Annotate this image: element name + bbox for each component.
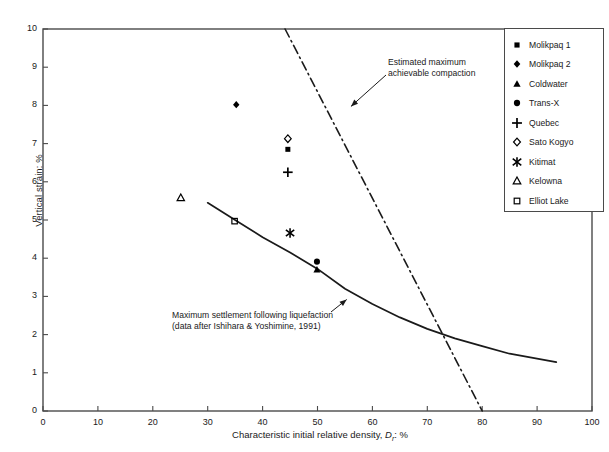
- y-axis-tick-label: 0: [13, 405, 37, 415]
- x-axis-tick-label: 50: [300, 417, 336, 427]
- legend: Molikpaq 1Molikpaq 2ColdwaterTrans-XQueb…: [504, 28, 604, 212]
- figure-canvas: Vertical strain: % Characteristic initia…: [0, 0, 609, 452]
- y-axis-tick-label: 8: [13, 99, 37, 109]
- legend-item-molikpaq-2[interactable]: Molikpaq 2: [505, 55, 603, 74]
- open-square-glyph: [514, 198, 520, 204]
- filled-diamond-icon: [505, 56, 529, 72]
- data-point-kelowna: [177, 194, 184, 201]
- legend-item-label: Molikpaq 1: [529, 40, 571, 50]
- data-point-kitimat: [286, 228, 294, 237]
- open-triangle-icon: [505, 173, 529, 189]
- annotation-line-2: achievable compaction: [388, 68, 475, 79]
- asterisk-icon: [505, 154, 529, 170]
- filled-triangle-icon: [505, 76, 529, 92]
- annotation-line-1: Estimated maximum: [388, 57, 475, 68]
- x-axis-tick-label: 40: [245, 417, 281, 427]
- x-axis-label-text: Characteristic initial relative density,: [232, 429, 382, 440]
- filled-diamond-glyph: [514, 60, 521, 68]
- legend-item-label: Sato Kogyo: [529, 137, 573, 147]
- x-axis-tick-label: 80: [464, 417, 500, 427]
- legend-item-label: Kitimat: [529, 157, 555, 167]
- filled-square-icon: [505, 37, 529, 53]
- x-axis-label: Characteristic initial relative density,…: [180, 429, 460, 442]
- plus-icon: [505, 115, 529, 131]
- legend-item-trans-x[interactable]: Trans-X: [505, 94, 603, 113]
- y-axis-tick-label: 5: [13, 214, 37, 224]
- legend-item-label: Trans-X: [529, 98, 559, 108]
- y-axis-tick-label: 4: [13, 252, 37, 262]
- annotation-estimated-maximum-achievable-compaction: Estimated maximum achievable compaction: [388, 57, 475, 79]
- y-axis-tick-label: 7: [13, 138, 37, 148]
- y-axis-tick-label: 2: [13, 329, 37, 339]
- legend-item-kelowna[interactable]: Kelowna: [505, 172, 603, 191]
- x-axis-label-unit: : %: [394, 429, 408, 440]
- y-axis-tick-label: 3: [13, 290, 37, 300]
- x-axis-label-symbol: D: [385, 429, 392, 440]
- legend-item-elliot-lake[interactable]: Elliot Lake: [505, 191, 603, 210]
- x-axis-tick-label: 10: [80, 417, 116, 427]
- legend-item-molikpaq-1[interactable]: Molikpaq 1: [505, 35, 603, 54]
- plus-glyph: [512, 118, 522, 128]
- x-axis-tick-label: 20: [135, 417, 171, 427]
- data-point-molikpaq-2: [233, 101, 239, 108]
- curve-solid: [208, 203, 557, 362]
- legend-item-sato-kogyo[interactable]: Sato Kogyo: [505, 133, 603, 152]
- y-axis-tick-label: 1: [13, 367, 37, 377]
- legend-item-label: Kelowna: [529, 176, 562, 186]
- x-axis-tick-label: 30: [190, 417, 226, 427]
- filled-square-glyph: [514, 42, 519, 47]
- annotation-line-1: Maximum settlement following liquefactio…: [172, 310, 333, 321]
- legend-item-label: Elliot Lake: [529, 196, 569, 206]
- annotation-maximum-settlement-following-liquefaction: Maximum settlement following liquefactio…: [172, 310, 333, 332]
- x-axis-tick-label: 100: [574, 417, 609, 427]
- filled-triangle-glyph: [513, 80, 520, 87]
- y-axis-tick-label: 6: [13, 176, 37, 186]
- open-triangle-glyph: [513, 177, 521, 184]
- x-axis-tick-label: 0: [25, 417, 61, 427]
- legend-item-kitimat[interactable]: Kitimat: [505, 152, 603, 171]
- data-point-quebec: [283, 167, 293, 177]
- annotation-line-2: (data after Ishihara & Yoshimine, 1991): [172, 321, 333, 332]
- x-axis-tick-label: 90: [519, 417, 555, 427]
- annotation-leader-compaction: [351, 75, 386, 106]
- filled-circle-icon: [505, 95, 529, 111]
- legend-item-label: Coldwater: [529, 79, 568, 89]
- data-point-trans-x: [314, 259, 320, 265]
- data-point-sato-kogyo: [284, 135, 291, 143]
- filled-circle-glyph: [514, 100, 520, 106]
- data-point-molikpaq-1: [285, 147, 290, 152]
- open-square-icon: [505, 193, 529, 209]
- legend-item-label: Molikpaq 2: [529, 59, 571, 69]
- y-axis-label: Vertical strain: %: [33, 131, 44, 251]
- legend-item-label: Quebec: [529, 118, 559, 128]
- legend-item-quebec[interactable]: Quebec: [505, 113, 603, 132]
- y-axis-tick-label: 10: [13, 23, 37, 33]
- y-axis-tick-label: 9: [13, 61, 37, 71]
- open-diamond-glyph: [514, 138, 521, 146]
- x-axis-tick-label: 70: [409, 417, 445, 427]
- x-axis-tick-label: 60: [354, 417, 390, 427]
- asterisk-glyph: [513, 157, 522, 167]
- annotation-leader-settlement-head: [340, 300, 347, 307]
- curve-dash-dot: [285, 29, 482, 411]
- open-diamond-icon: [505, 134, 529, 150]
- legend-item-coldwater[interactable]: Coldwater: [505, 74, 603, 93]
